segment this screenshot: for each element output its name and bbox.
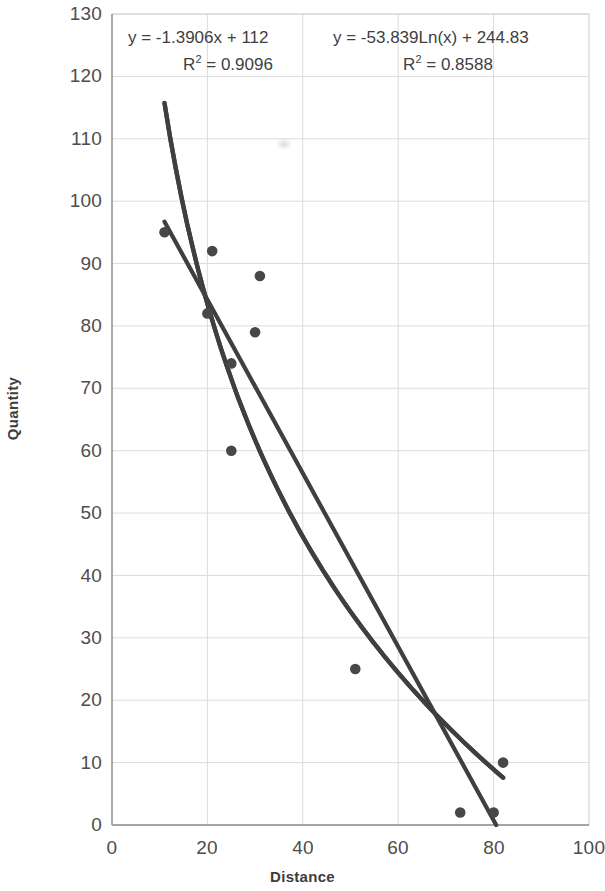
y-tick-label: 70: [46, 378, 102, 397]
y-tick-label: 50: [46, 503, 102, 522]
y-tick-label: 60: [46, 441, 102, 460]
data-point: [159, 227, 170, 238]
y-axis-title: Quantity: [4, 359, 21, 459]
vertical-gridlines: [207, 14, 493, 825]
r-symbol: R: [183, 55, 195, 74]
x-tick-label: 20: [177, 838, 237, 857]
x-tick-label: 40: [273, 838, 333, 857]
y-axis-ticks: 130 120 110 100 90 80 70 60 50 40 30 20 …: [22, 0, 102, 891]
linear-r-squared: R2 = 0.9096: [128, 51, 328, 78]
x-tick-label: 0: [82, 838, 142, 857]
x-tick-label: 80: [464, 838, 524, 857]
data-point: [226, 445, 237, 456]
y-tick-label: 10: [46, 753, 102, 772]
logarithmic-equation-text: y = -53.839Ln(x) + 244.83: [333, 24, 563, 51]
horizontal-gridlines: [112, 14, 589, 763]
logarithmic-r-squared: R2 = 0.8588: [333, 51, 563, 78]
y-tick-label: 40: [46, 566, 102, 585]
plot-frame: [112, 14, 589, 825]
data-point: [226, 358, 237, 369]
y-tick-label: 110: [46, 129, 102, 148]
y-tick-label: 20: [46, 690, 102, 709]
r-squared-value: = 0.8588: [422, 55, 493, 74]
data-point: [498, 757, 509, 768]
data-point: [488, 807, 499, 818]
logarithmic-trendline: [165, 103, 504, 778]
data-point: [202, 308, 213, 319]
x-axis-title: Distance: [0, 868, 605, 885]
y-tick-label: 80: [46, 316, 102, 335]
scatter-chart: 130 120 110 100 90 80 70 60 50 40 30 20 …: [0, 0, 605, 891]
y-tick-label: 130: [46, 4, 102, 23]
logarithmic-trendline-rendered: [165, 103, 504, 778]
r-symbol: R: [403, 55, 415, 74]
data-point: [250, 327, 261, 338]
y-tick-label: 90: [46, 254, 102, 273]
x-tick-label: 100: [559, 838, 605, 857]
x-tick-label: 60: [368, 838, 428, 857]
linear-trendline: [165, 222, 497, 825]
linear-equation-annotation: y = -1.3906x + 112 R2 = 0.9096: [128, 24, 328, 78]
data-point: [207, 246, 218, 257]
data-point: [455, 807, 466, 818]
data-point: [255, 271, 266, 282]
y-tick-label: 0: [46, 815, 102, 834]
data-points: [159, 227, 508, 818]
logarithmic-equation-annotation: y = -53.839Ln(x) + 244.83 R2 = 0.8588: [333, 24, 563, 78]
linear-equation-text: y = -1.3906x + 112: [128, 24, 328, 51]
y-tick-label: 100: [46, 191, 102, 210]
r-squared-value: = 0.9096: [202, 55, 273, 74]
data-point: [350, 664, 361, 675]
y-tick-label: 120: [46, 66, 102, 85]
y-tick-label: 30: [46, 628, 102, 647]
